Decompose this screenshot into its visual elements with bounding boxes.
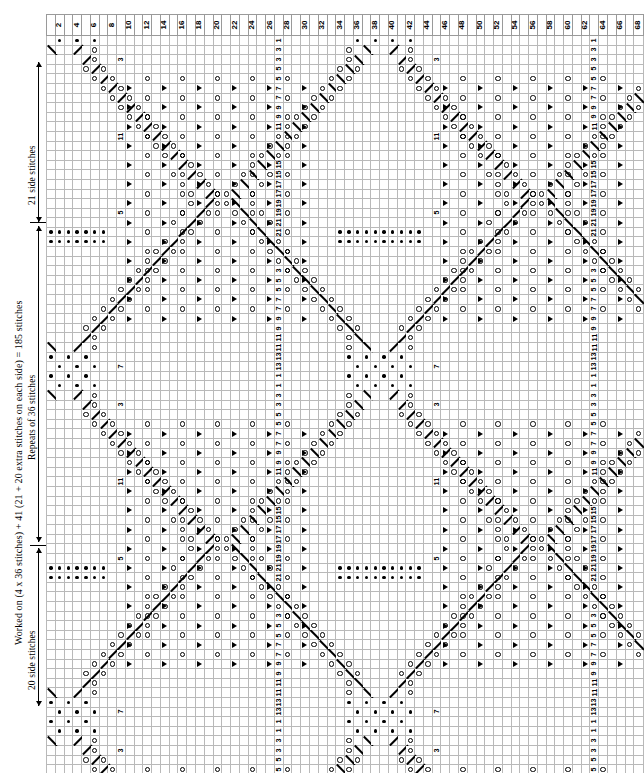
chart-cell: 19 — [590, 554, 599, 564]
chart-cell — [441, 736, 450, 746]
chart-cell — [450, 736, 459, 746]
chart-cell — [213, 179, 222, 189]
chart-cell — [546, 74, 555, 84]
chart-cell — [353, 573, 362, 583]
chart-cell — [564, 314, 573, 324]
yo-symbol — [433, 429, 441, 438]
chart-cell — [248, 496, 257, 506]
k2tog-symbol — [468, 132, 476, 141]
chart-cell — [616, 323, 625, 333]
chart-cell — [476, 295, 485, 305]
tri-symbol — [161, 276, 169, 285]
chart-cell — [634, 544, 644, 554]
chart-cell — [64, 477, 73, 487]
chart-cell — [152, 45, 161, 55]
yo-symbol — [249, 228, 257, 237]
chart-cell — [520, 688, 529, 698]
chart-cell — [55, 515, 64, 525]
chart-cell — [467, 266, 476, 276]
chart-cell — [397, 707, 406, 717]
chart-cell — [239, 151, 248, 161]
yo-symbol — [143, 621, 151, 630]
chart-cell — [546, 438, 555, 448]
chart-cell — [458, 429, 467, 439]
chart-cell — [616, 247, 625, 257]
dot-symbol — [56, 228, 64, 237]
chart-cell — [257, 688, 266, 698]
chart-cell — [160, 554, 169, 564]
chart-cell — [599, 525, 608, 535]
chart-cell — [178, 285, 187, 295]
tri-symbol — [301, 487, 309, 496]
chart-cell — [178, 697, 187, 707]
chart-cell — [196, 371, 205, 381]
chart-cell — [117, 45, 126, 55]
chart-cell — [160, 438, 169, 448]
chart-cell — [458, 592, 467, 602]
chart-cell — [529, 534, 538, 544]
chart-cell — [616, 611, 625, 621]
chart-cell — [134, 103, 143, 113]
chart-cell — [47, 122, 56, 132]
chart-cell: 5 — [432, 554, 441, 564]
chart-row — [47, 496, 644, 506]
chart-cell — [441, 160, 450, 170]
chart-cell — [82, 247, 91, 257]
tri-symbol — [266, 525, 274, 534]
chart-cell — [415, 227, 424, 237]
chart-cell — [467, 726, 476, 736]
chart-cell — [494, 93, 503, 103]
chart-cell — [415, 362, 424, 372]
chart-cell — [564, 64, 573, 74]
chart-cell — [371, 247, 380, 257]
chart-cell — [371, 227, 380, 237]
chart-cell — [388, 103, 397, 113]
chart-cell — [581, 343, 590, 353]
dot-symbol — [100, 228, 108, 237]
chart-cell — [537, 83, 546, 93]
chart-cell — [345, 112, 354, 122]
chart-cell — [152, 448, 161, 458]
chart-cell — [423, 410, 432, 420]
chart-cell — [502, 458, 511, 468]
chart-cell — [82, 650, 91, 660]
chart-cell — [152, 103, 161, 113]
chart-cell — [266, 563, 275, 573]
chart-cell — [117, 429, 126, 439]
chart-cell — [555, 266, 564, 276]
chart-cell — [239, 112, 248, 122]
chart-cell — [283, 199, 292, 209]
chart-cell — [248, 659, 257, 669]
chart-cell — [47, 199, 56, 209]
chart-cell — [318, 707, 327, 717]
chart-cell — [608, 371, 617, 381]
chart-cell — [231, 755, 240, 765]
chart-cell — [204, 659, 213, 669]
chart-cell — [309, 410, 318, 420]
chart-cell — [336, 573, 345, 583]
chart-cell — [309, 131, 318, 141]
row-number: 19 — [590, 209, 598, 218]
chart-cell — [380, 582, 389, 592]
chart-cell — [213, 678, 222, 688]
chart-cell — [90, 534, 99, 544]
chart-cell — [432, 458, 441, 468]
chart-cell: 13 — [274, 352, 283, 362]
dot-symbol — [398, 372, 406, 381]
yo-symbol — [529, 74, 537, 83]
chart-cell — [292, 179, 301, 189]
row-number: 11 — [117, 477, 125, 486]
yo-symbol — [406, 679, 414, 688]
chart-cell — [73, 237, 82, 247]
tri-symbol — [547, 180, 555, 189]
chart-cell — [160, 745, 169, 755]
chart-cell — [415, 602, 424, 612]
chart-cell — [90, 295, 99, 305]
chart-cell — [441, 189, 450, 199]
chart-cell — [318, 227, 327, 237]
chart-cell — [222, 64, 231, 74]
tri-symbol — [441, 602, 449, 611]
chart-cell — [283, 352, 292, 362]
yo-symbol — [336, 65, 344, 74]
chart-cell — [502, 333, 511, 343]
